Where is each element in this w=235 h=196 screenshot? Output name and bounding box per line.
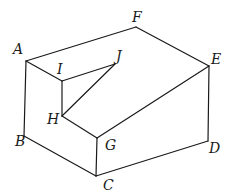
edge-FE [136, 27, 209, 66]
label-J: J [113, 48, 123, 64]
edge-HG [62, 116, 97, 138]
vertex-labels: A B C D E F G H I J [11, 9, 221, 193]
edge-GE [97, 66, 209, 138]
solid-figure: A B C D E F G H I J [0, 0, 235, 196]
label-F: F [131, 9, 143, 25]
edge-GC [96, 138, 97, 176]
edge-ED [208, 66, 209, 141]
label-G: G [105, 137, 116, 153]
label-E: E [210, 51, 221, 67]
label-B: B [14, 133, 25, 149]
label-C: C [103, 177, 114, 193]
label-H: H [46, 111, 60, 127]
label-A: A [11, 41, 23, 57]
label-D: D [208, 140, 220, 156]
edge-BA [24, 61, 26, 136]
edge-CB [24, 136, 96, 176]
label-I: I [56, 61, 63, 77]
edge-HJ [62, 64, 115, 116]
